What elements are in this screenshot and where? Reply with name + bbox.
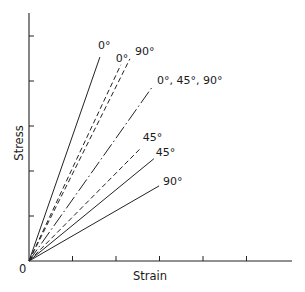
series-label: 0° xyxy=(116,52,129,65)
series-line xyxy=(29,159,154,261)
series-label: 0° xyxy=(98,39,111,52)
series-label: 90° xyxy=(163,175,183,188)
series-labels: 0°0°90°0°, 45°, 90°45°45°90° xyxy=(98,39,223,188)
series-label: 0°, 45°, 90° xyxy=(157,74,222,87)
data-series xyxy=(29,57,159,261)
x-axis-ticks xyxy=(73,256,247,261)
y-axis-title: Stress xyxy=(12,125,26,160)
series-line xyxy=(29,57,100,261)
series-line xyxy=(29,148,141,261)
series-label: 45° xyxy=(143,131,163,144)
x-axis-title: Strain xyxy=(133,269,167,283)
chart-canvas: 0°0°90°0°, 45°, 90°45°45°90° 0 Strain St… xyxy=(0,0,305,292)
series-line xyxy=(29,65,121,261)
series-line xyxy=(29,59,130,261)
series-label: 90° xyxy=(135,45,155,58)
series-label: 45° xyxy=(156,146,176,159)
origin-label: 0 xyxy=(19,262,26,276)
stress-strain-chart: 0°0°90°0°, 45°, 90°45°45°90° 0 Strain St… xyxy=(0,0,305,292)
series-line xyxy=(29,186,159,261)
series-line xyxy=(29,86,153,261)
y-axis-ticks xyxy=(29,36,34,216)
